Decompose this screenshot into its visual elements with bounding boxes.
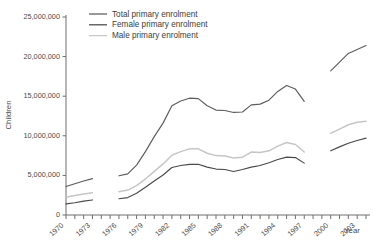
series-line-female-segment-2: [331, 138, 366, 151]
chart-legend: Total primary enrolmentFemale primary en…: [89, 10, 208, 41]
series-lines: [66, 46, 366, 204]
y-axis-tick-label: 5,000,000: [28, 170, 60, 179]
x-axis-tick-label: 1973: [74, 221, 92, 239]
series-line-male-segment-2: [331, 121, 366, 133]
legend-label-female: Female primary enrolment: [112, 20, 208, 29]
x-axis-title: Year: [344, 226, 360, 235]
x-axis-tick-label: 1985: [180, 221, 198, 239]
x-axis-tick-label: 1991: [233, 221, 251, 239]
y-axis-tick-label: 20,000,000: [23, 52, 60, 61]
y-axis: 05,000,00010,000,00015,000,00020,000,000…: [23, 12, 66, 219]
x-axis-tick-label: 2000: [312, 221, 330, 239]
y-axis-tick-label: 10,000,000: [23, 131, 60, 140]
x-axis-tick-label: 1982: [153, 221, 171, 239]
series-line-total-segment-0: [66, 179, 92, 187]
series-line-total-segment-2: [331, 46, 366, 71]
legend-label-male: Male primary enrolment: [112, 31, 199, 40]
x-axis: 1970197319761979198219851988199119941997…: [47, 215, 370, 238]
x-axis-tick-label: 1988: [206, 221, 224, 239]
x-axis-tick-label: 1976: [100, 221, 118, 239]
x-axis-tick-label: 1997: [285, 221, 303, 239]
x-axis-tick-label: 1994: [259, 221, 277, 239]
series-line-male-segment-0: [66, 193, 92, 197]
y-axis-tick-label: 0: [56, 210, 60, 219]
chart-canvas: 05,000,00010,000,00015,000,00020,000,000…: [0, 0, 374, 246]
x-axis-tick-label: 1970: [47, 221, 65, 239]
line-chart: 05,000,00010,000,00015,000,00020,000,000…: [0, 0, 374, 246]
y-axis-tick-label: 25,000,000: [23, 12, 60, 21]
series-line-female-segment-0: [66, 200, 92, 204]
series-line-total-segment-1: [119, 86, 304, 176]
y-axis-tick-label: 15,000,000: [23, 91, 60, 100]
legend-label-total: Total primary enrolment: [112, 10, 198, 19]
x-axis-tick-label: 1979: [127, 221, 145, 239]
y-axis-title: Children: [4, 100, 13, 129]
